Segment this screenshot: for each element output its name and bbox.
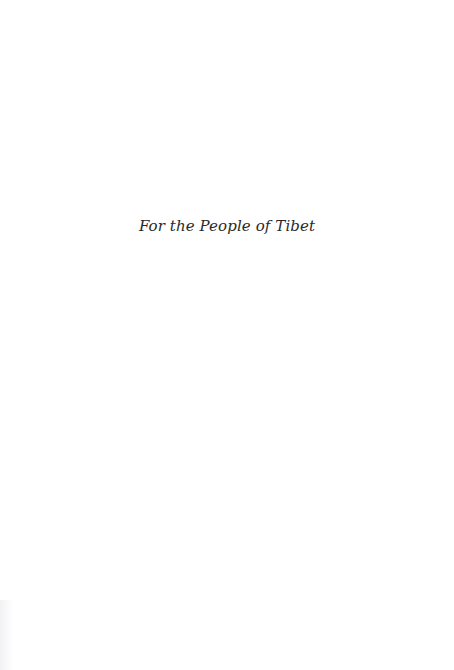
dedication-text: For the People of Tibet — [0, 217, 454, 235]
book-page: For the People of Tibet — [0, 0, 454, 670]
page-edge-shadow — [0, 600, 14, 670]
